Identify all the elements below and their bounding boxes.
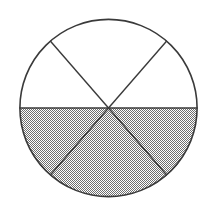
figure-container <box>0 0 215 216</box>
circle-diagram <box>0 0 215 216</box>
